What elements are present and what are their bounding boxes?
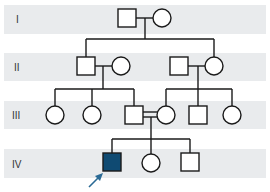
individual-ii-4-female[interactable] bbox=[205, 57, 223, 75]
individual-i-2-female[interactable] bbox=[153, 9, 171, 27]
individual-iii-4-female[interactable] bbox=[157, 106, 175, 124]
individual-iii-3-male[interactable] bbox=[125, 106, 143, 124]
pedigree-diagram: I II III IV bbox=[0, 0, 270, 192]
individual-iv-1-affected-male-proband[interactable] bbox=[103, 153, 121, 171]
individual-iii-2-female[interactable] bbox=[83, 106, 101, 124]
individual-i-1-male[interactable] bbox=[118, 9, 136, 27]
individual-ii-1-male[interactable] bbox=[77, 57, 95, 75]
generation-label-iv: IV bbox=[12, 159, 22, 170]
individual-iii-5-male[interactable] bbox=[189, 106, 207, 124]
individual-iii-1-female[interactable] bbox=[46, 106, 64, 124]
generation-band-iv bbox=[4, 149, 266, 178]
generation-label-ii: II bbox=[14, 62, 20, 73]
generation-label-i: I bbox=[16, 14, 19, 25]
individual-iii-6-female[interactable] bbox=[223, 106, 241, 124]
generation-band-ii bbox=[4, 53, 266, 81]
individual-ii-2-female[interactable] bbox=[112, 57, 130, 75]
individual-iv-2-female[interactable] bbox=[142, 154, 160, 172]
generation-label-iii: III bbox=[12, 110, 20, 121]
individual-iv-3-male[interactable] bbox=[181, 153, 199, 171]
individual-ii-3-male[interactable] bbox=[170, 57, 188, 75]
